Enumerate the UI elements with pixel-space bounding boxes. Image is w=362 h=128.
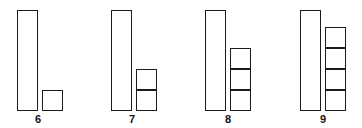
unit-cube xyxy=(230,48,251,69)
unit-cube xyxy=(136,90,157,111)
unit-cube xyxy=(325,27,346,48)
group-label-8: 8 xyxy=(218,113,238,126)
group-label-7: 7 xyxy=(122,113,142,126)
ten-rod-7 xyxy=(111,10,132,111)
ten-rod-8 xyxy=(205,10,226,111)
unit-cube xyxy=(325,90,346,111)
unit-cube xyxy=(42,90,63,111)
ten-rod-9 xyxy=(300,10,321,111)
unit-cube xyxy=(230,90,251,111)
base-ten-block-figure: 6789 xyxy=(0,0,362,128)
group-label-9: 9 xyxy=(313,113,333,126)
group-label-6: 6 xyxy=(28,113,48,126)
unit-cube xyxy=(325,48,346,69)
unit-cube xyxy=(325,69,346,90)
unit-cube xyxy=(136,69,157,90)
unit-cube xyxy=(230,69,251,90)
ten-rod-6 xyxy=(17,10,38,111)
